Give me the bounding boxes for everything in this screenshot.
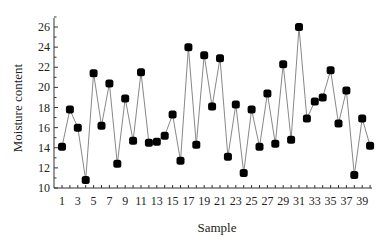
x-tick-label: 39 (356, 194, 368, 208)
data-point-marker (224, 153, 232, 161)
x-axis-title: Sample (198, 220, 237, 235)
data-point-marker (240, 169, 248, 177)
data-point-marker (121, 94, 129, 102)
x-tick-label: 1 (59, 194, 65, 208)
y-tick-label: 24 (38, 40, 50, 54)
data-point-marker (271, 140, 279, 148)
data-point-marker (169, 111, 177, 119)
data-point-marker (335, 120, 343, 128)
data-point-marker (327, 66, 335, 74)
x-tick-label: 17 (182, 194, 194, 208)
y-tick-label: 18 (38, 101, 50, 115)
data-point-marker (161, 132, 169, 140)
y-tick-label: 20 (38, 80, 50, 94)
y-tick-label: 14 (38, 141, 50, 155)
data-point-marker (232, 101, 240, 109)
series-line (62, 27, 370, 180)
data-point-marker (192, 141, 200, 149)
y-tick-label: 22 (38, 60, 50, 74)
x-tick-label: 37 (340, 194, 352, 208)
data-point-marker (216, 54, 224, 62)
x-tick-label: 31 (293, 194, 305, 208)
data-point-marker (342, 86, 350, 94)
data-point-marker (319, 93, 327, 101)
x-tick-label: 15 (167, 194, 179, 208)
data-point-marker (177, 157, 185, 165)
data-point-marker (113, 160, 121, 168)
data-point-marker (295, 23, 303, 31)
x-tick-label: 33 (309, 194, 321, 208)
data-point-marker (82, 176, 90, 184)
data-point-marker (74, 124, 82, 132)
data-point-marker (129, 137, 137, 145)
x-tick-label: 25 (246, 194, 258, 208)
data-point-marker (358, 115, 366, 123)
x-tick-label: 11 (135, 194, 147, 208)
data-point-marker (153, 138, 161, 146)
data-point-marker (200, 51, 208, 59)
y-axis-title: Moisture content (10, 63, 25, 152)
data-point-marker (303, 115, 311, 123)
x-tick-label: 19 (198, 194, 210, 208)
data-point-marker (137, 68, 145, 76)
x-tick-label: 35 (325, 194, 337, 208)
data-point-marker (279, 60, 287, 68)
data-point-marker (90, 69, 98, 77)
x-tick-label: 3 (75, 194, 81, 208)
data-point-marker (311, 97, 319, 105)
data-point-marker (263, 89, 271, 97)
data-point-marker (98, 122, 106, 130)
data-point-marker (248, 106, 256, 114)
data-point-marker (105, 79, 113, 87)
data-point-marker (58, 143, 66, 151)
x-tick-label: 21 (214, 194, 226, 208)
x-tick-label: 27 (261, 194, 273, 208)
x-tick-label: 23 (230, 194, 242, 208)
data-point-marker (208, 103, 216, 111)
x-tick-label: 9 (122, 194, 128, 208)
y-tick-label: 10 (38, 181, 50, 195)
y-tick-label: 12 (38, 161, 50, 175)
x-tick-label: 7 (106, 194, 112, 208)
data-point-marker (184, 43, 192, 51)
data-point-marker (287, 136, 295, 144)
data-point-marker (145, 139, 153, 147)
x-tick-label: 29 (277, 194, 289, 208)
data-point-marker (66, 106, 74, 114)
data-point-marker (350, 171, 358, 179)
data-point-marker (256, 143, 264, 151)
x-tick-label: 13 (151, 194, 163, 208)
x-tick-label: 5 (91, 194, 97, 208)
y-tick-label: 26 (38, 20, 50, 34)
data-series (58, 23, 374, 184)
y-tick-label: 16 (38, 121, 50, 135)
data-point-marker (366, 142, 374, 150)
line-chart: 1012141618202224261357911131517192123252… (0, 0, 391, 247)
